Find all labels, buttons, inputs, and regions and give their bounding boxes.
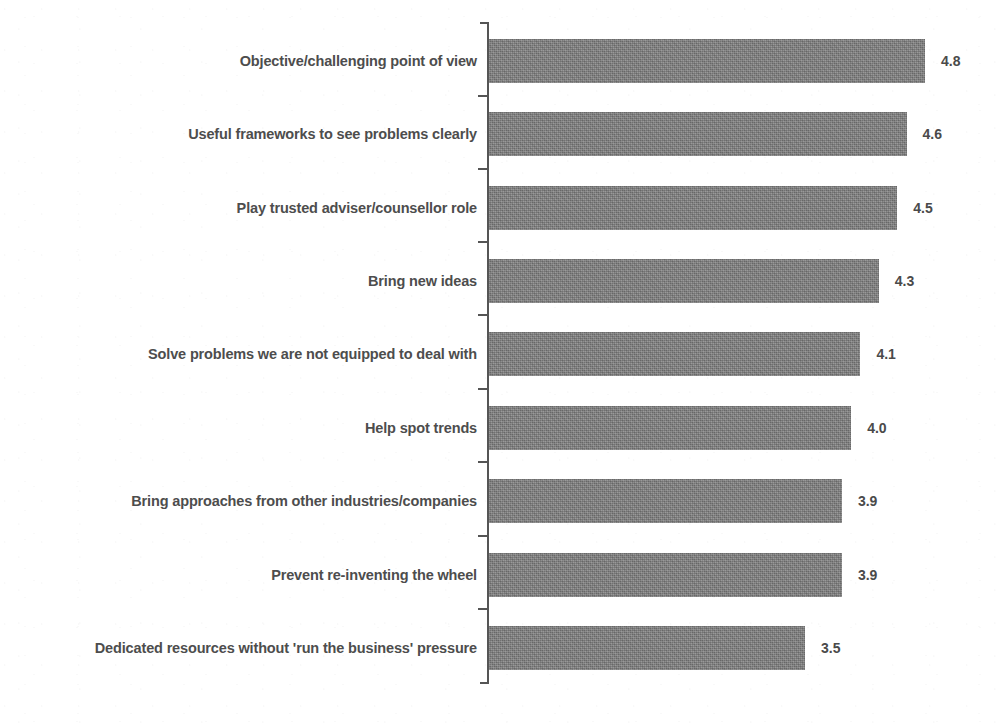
bar: [489, 332, 860, 376]
bar: [489, 553, 842, 597]
bar-row: Solve problems we are not equipped to de…: [0, 332, 996, 376]
bar-row: Useful frameworks to see problems clearl…: [0, 112, 996, 156]
category-label: Dedicated resources without 'run the bus…: [95, 640, 477, 656]
category-label: Useful frameworks to see problems clearl…: [188, 126, 477, 142]
axis-cap-top: [480, 22, 489, 24]
bar-chart: Objective/challenging point of view 4.8 …: [0, 0, 996, 726]
category-label: Bring new ideas: [368, 273, 477, 289]
axis-tick: [478, 608, 488, 610]
axis-tick: [478, 314, 488, 316]
bar-row: Bring approaches from other industries/c…: [0, 479, 996, 523]
axis-tick: [478, 535, 488, 537]
category-label: Help spot trends: [365, 420, 477, 436]
bar: [489, 406, 851, 450]
axis-tick: [478, 388, 488, 390]
bar-row: Play trusted adviser/counsellor role 4.5: [0, 186, 996, 230]
bar-row: Help spot trends 4.0: [0, 406, 996, 450]
bar-value-label: 4.5: [913, 200, 932, 216]
bar-value-label: 4.8: [941, 53, 960, 69]
category-label: Solve problems we are not equipped to de…: [148, 346, 477, 362]
bar-row: Dedicated resources without 'run the bus…: [0, 626, 996, 670]
category-label: Prevent re-inventing the wheel: [271, 567, 477, 583]
bar: [489, 112, 907, 156]
bar: [489, 186, 897, 230]
bar-row: Bring new ideas 4.3: [0, 259, 996, 303]
bar-value-label: 3.9: [858, 493, 877, 509]
bar-row: Objective/challenging point of view 4.8: [0, 39, 996, 83]
bar-value-label: 4.1: [876, 346, 895, 362]
category-label: Play trusted adviser/counsellor role: [237, 200, 477, 216]
axis-tick: [478, 95, 488, 97]
axis-cap-bottom: [480, 682, 489, 684]
bar-value-label: 4.0: [867, 420, 886, 436]
bar: [489, 626, 805, 670]
category-label: Bring approaches from other industries/c…: [131, 493, 477, 509]
category-label: Objective/challenging point of view: [240, 53, 477, 69]
bar-value-label: 3.9: [858, 567, 877, 583]
bar: [489, 259, 879, 303]
bar-value-label: 3.5: [821, 640, 840, 656]
bar-value-label: 4.3: [895, 273, 914, 289]
axis-tick: [478, 168, 488, 170]
bar-value-label: 4.6: [923, 126, 942, 142]
bar-row: Prevent re-inventing the wheel 3.9: [0, 553, 996, 597]
bar: [489, 479, 842, 523]
axis-tick: [478, 461, 488, 463]
axis-tick: [478, 241, 488, 243]
bar: [489, 39, 925, 83]
